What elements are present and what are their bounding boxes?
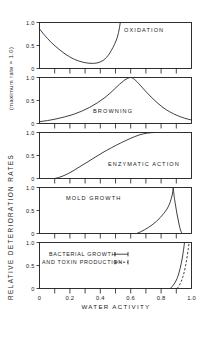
panel-bacterial-ylabel-0: 0 bbox=[31, 286, 34, 292]
panel-label-browning: BROWNING bbox=[93, 108, 133, 114]
xtick-label-04: 0.4 bbox=[96, 295, 105, 301]
panel-browning: 1.0 0.5 0 BROWNING bbox=[26, 75, 191, 129]
panel-label-oxidation: OXIDATION bbox=[124, 27, 164, 33]
panel-enzymatic-frame bbox=[40, 133, 192, 179]
panel-browning-frame bbox=[40, 78, 192, 124]
panel-enzymatic-ylabel-05: 0.5 bbox=[26, 153, 34, 159]
panel-enzymatic-xticks bbox=[55, 179, 177, 184]
panel-mold-xticks bbox=[55, 234, 177, 239]
curve-browning bbox=[40, 78, 192, 122]
x-axis-title: WATER ACTIVITY bbox=[81, 303, 150, 310]
y-axis-title-main: RELATIVE DETERIORATION RATES bbox=[7, 154, 14, 300]
panel-browning-ylabel-05: 0.5 bbox=[26, 98, 34, 104]
x-axis-labels: 0 0.2 0.4 0.6 0.8 1.0 bbox=[38, 295, 196, 301]
curve-bacterial-growth bbox=[170, 243, 184, 289]
curve-oxidation bbox=[40, 23, 121, 64]
xtick-label-0: 0 bbox=[38, 295, 41, 301]
deterioration-rate-figure: RELATIVE DETERIORATION RATES (maximum ra… bbox=[0, 0, 199, 348]
panel-enzymatic-ylabel-1: 1.0 bbox=[26, 130, 34, 136]
legend-solid-marker bbox=[115, 252, 128, 256]
curve-enzymatic-action bbox=[55, 133, 155, 179]
panel-bacterial-frame bbox=[40, 243, 192, 289]
xtick-label-08: 0.8 bbox=[157, 295, 166, 301]
legend-label-toxin-production: AND TOXIN PRODUCTION bbox=[42, 259, 123, 265]
panel-bacterial-xticks bbox=[55, 289, 177, 294]
panel-browning-ylabel-0: 0 bbox=[31, 121, 34, 127]
legend-label-bacterial-growth: BACTERIAL GROWTH bbox=[49, 251, 116, 257]
legend-bacterial: BACTERIAL GROWTH AND TOXIN PRODUCTION bbox=[42, 251, 128, 265]
xtick-label-10: 1.0 bbox=[187, 295, 196, 301]
xtick-label-02: 0.2 bbox=[66, 295, 75, 301]
panel-oxidation-frame bbox=[40, 23, 192, 69]
panel-label-enzymatic-action: ENZYMATIC ACTION bbox=[108, 161, 180, 167]
panel-oxidation: 1.0 0.5 0 OXIDATION bbox=[26, 20, 191, 74]
chart-svg: RELATIVE DETERIORATION RATES (maximum ra… bbox=[0, 0, 199, 348]
panel-oxidation-ylabel-0: 0 bbox=[31, 66, 34, 72]
panel-enzymatic-ylabel-0: 0 bbox=[31, 176, 34, 182]
panel-browning-xticks bbox=[55, 124, 177, 129]
panel-bacterial-growth: 1.0 0.5 0 BACTERIAL GROWTH bbox=[26, 240, 191, 294]
panel-browning-ylabel-1: 1.0 bbox=[26, 75, 34, 81]
panel-bacterial-ylabel-05: 0.5 bbox=[26, 263, 34, 269]
panel-label-mold-growth: MOLD GROWTH bbox=[66, 195, 121, 201]
panel-mold-ylabel-0: 0 bbox=[31, 231, 34, 237]
xtick-label-06: 0.6 bbox=[126, 295, 135, 301]
panel-oxidation-ylabel-1: 1.0 bbox=[26, 20, 34, 26]
panel-mold-ylabel-1: 1.0 bbox=[26, 185, 34, 191]
panel-oxidation-ylabel-05: 0.5 bbox=[26, 43, 34, 49]
panel-mold-ylabel-05: 0.5 bbox=[26, 208, 34, 214]
y-axis-title-group: RELATIVE DETERIORATION RATES (maximum ra… bbox=[7, 47, 14, 300]
panel-bacterial-ylabel-1: 1.0 bbox=[26, 240, 34, 246]
y-axis-title-sub: (maximum rate = 1.0) bbox=[8, 47, 14, 110]
panel-oxidation-xticks bbox=[55, 69, 177, 74]
panel-enzymatic-action: 1.0 0.5 0 ENZYMATIC ACTION bbox=[26, 130, 191, 184]
curve-mold-growth bbox=[137, 188, 182, 234]
panel-mold-growth: 1.0 0.5 0 MOLD GROWTH bbox=[26, 185, 191, 239]
